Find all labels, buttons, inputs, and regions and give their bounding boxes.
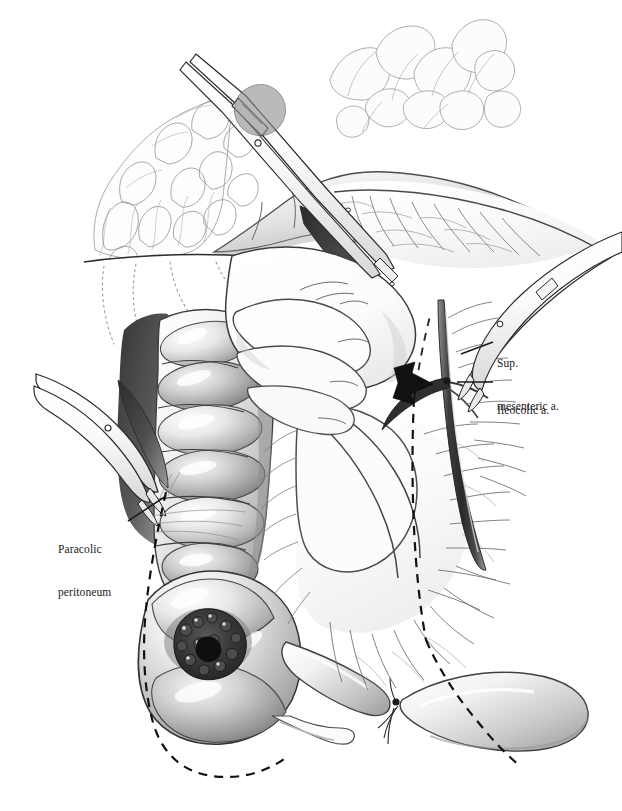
label-line-1: Sup. xyxy=(497,356,559,370)
ileocolic-artery-label: Ileocolic a. xyxy=(497,374,549,446)
label-line-2: peritoneum xyxy=(58,585,111,599)
illustration-canvas: Sup. mesenteric a. Ileocolic a. Paracoli… xyxy=(0,0,622,811)
label-line-1: Ileocolic a. xyxy=(497,403,549,417)
label-line-1: Paracolic xyxy=(58,542,111,556)
paracolic-peritoneum-label: Paracolic peritoneum xyxy=(58,513,111,628)
